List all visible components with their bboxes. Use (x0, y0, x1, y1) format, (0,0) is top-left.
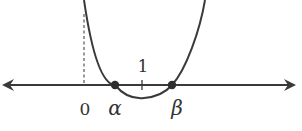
parabola-curve (84, 0, 205, 98)
label-alpha: α (108, 98, 122, 118)
diagram-canvas (0, 0, 302, 131)
label-origin-zero: 0 (80, 101, 91, 118)
root-point-alpha (111, 81, 119, 89)
label-one: 1 (138, 58, 149, 75)
root-point-beta (168, 81, 176, 89)
label-beta: β (171, 98, 183, 118)
